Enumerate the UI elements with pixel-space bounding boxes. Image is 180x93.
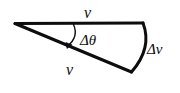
label-delta-v: Δv	[147, 42, 162, 57]
bottom-velocity-vector-line	[15, 24, 132, 73]
label-v-bottom: v	[66, 62, 73, 78]
label-v-top: v	[84, 5, 91, 21]
angle-sweep-arrow-shaft	[68, 25, 76, 47]
label-delta-theta: Δθ	[80, 33, 96, 48]
delta-v-arc	[132, 23, 146, 72]
top-velocity-vector-line	[15, 23, 143, 24]
figure-container: v v Δθ Δv	[0, 0, 180, 93]
